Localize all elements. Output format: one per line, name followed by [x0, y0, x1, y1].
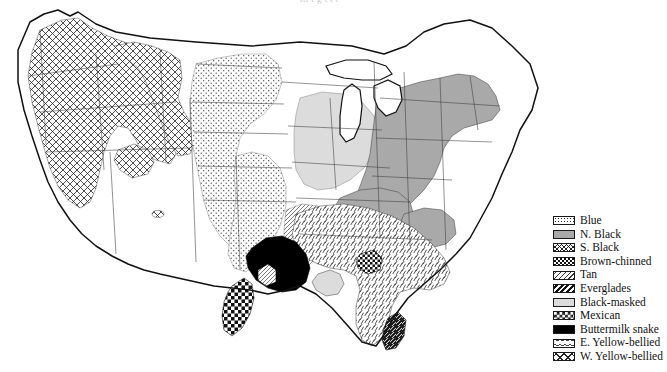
- legend-swatch-w-yellow-bellied-icon: [553, 352, 575, 361]
- legend-item-buttermilk-snake[interactable]: Buttermilk snake: [553, 323, 667, 337]
- legend-label-black-masked: Black-masked: [580, 297, 646, 309]
- legend-label-mexican: Mexican: [580, 310, 620, 322]
- map-svg: [0, 2, 548, 370]
- map-base-layer: [18, 10, 538, 350]
- range-map-figure: ttt t g t t t: [0, 0, 667, 372]
- legend-swatch-brown-chinned-icon: [553, 257, 575, 266]
- legend-swatch-mexican-icon: [553, 311, 575, 320]
- region-small-island-nm: [152, 210, 164, 217]
- legend-label-buttermilk-snake: Buttermilk snake: [580, 324, 659, 336]
- legend-label-everglades: Everglades: [580, 283, 631, 295]
- legend-item-blue[interactable]: Blue: [553, 214, 667, 228]
- legend-label-brown-chinned: Brown-chinned: [580, 256, 652, 268]
- us-range-map: [0, 2, 548, 370]
- legend-label-s-black: S. Black: [580, 242, 619, 254]
- legend-swatch-everglades-icon: [553, 284, 575, 293]
- legend-swatch-black-masked-icon: [553, 298, 575, 307]
- legend-label-e-yellow-bellied: E. Yellow-bellied: [580, 337, 660, 349]
- legend-swatch-tan-icon: [553, 271, 575, 280]
- legend-item-everglades[interactable]: Everglades: [553, 282, 667, 296]
- legend-swatch-e-yellow-bellied-icon: [553, 339, 575, 348]
- legend-swatch-s-black-icon: [553, 243, 575, 252]
- legend-item-mexican[interactable]: Mexican: [553, 309, 667, 323]
- legend-label-w-yellow-bellied: W. Yellow-bellied: [580, 351, 663, 363]
- legend-swatch-buttermilk-snake-icon: [553, 325, 575, 334]
- legend-label-blue: Blue: [580, 215, 602, 227]
- map-legend: Blue N. Black S. Black Brown-chinned Tan…: [553, 214, 667, 364]
- legend-swatch-blue-icon: [553, 216, 575, 225]
- legend-item-s-black[interactable]: S. Black: [553, 241, 667, 255]
- legend-item-w-yellow-bellied[interactable]: W. Yellow-bellied: [553, 350, 667, 364]
- legend-item-brown-chinned[interactable]: Brown-chinned: [553, 255, 667, 269]
- legend-label-n-black: N. Black: [580, 229, 621, 241]
- legend-item-black-masked[interactable]: Black-masked: [553, 296, 667, 310]
- legend-item-tan[interactable]: Tan: [553, 268, 667, 282]
- legend-label-tan: Tan: [580, 269, 597, 281]
- legend-swatch-n-black-icon: [553, 230, 575, 239]
- legend-item-e-yellow-bellied[interactable]: E. Yellow-bellied: [553, 336, 667, 350]
- legend-item-n-black[interactable]: N. Black: [553, 228, 667, 242]
